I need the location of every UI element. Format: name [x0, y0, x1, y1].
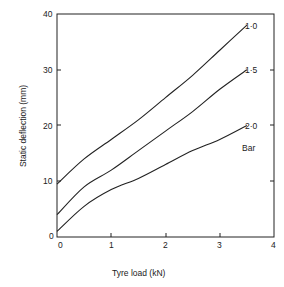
unit-label-bar: Bar — [242, 143, 255, 153]
series-line-1-0 — [57, 25, 247, 184]
y-axis-label: Static deflection (mm) — [18, 71, 28, 181]
plot-frame — [57, 14, 274, 237]
y-tick-20: 20 — [43, 121, 52, 131]
x-tick-2: 2 — [163, 240, 168, 250]
y-tick-30: 30 — [43, 65, 52, 75]
x-tick-0: 0 — [58, 240, 63, 250]
x-tick-4: 4 — [271, 240, 276, 250]
x-tick-1: 1 — [109, 240, 114, 250]
y-tick-10: 10 — [43, 176, 52, 186]
series-label-1-5: 1·5 — [245, 65, 257, 75]
series-label-2-0: 2·0 — [245, 121, 257, 131]
y-tick-0: 0 — [49, 231, 54, 241]
series-label-1-0: 1·0 — [245, 21, 257, 31]
x-tick-3: 3 — [217, 240, 222, 250]
y-tick-40: 40 — [43, 9, 52, 19]
x-ticks — [111, 233, 220, 237]
x-axis-label: Tyre load (kN) — [112, 268, 165, 278]
series-line-1-5 — [57, 70, 247, 215]
